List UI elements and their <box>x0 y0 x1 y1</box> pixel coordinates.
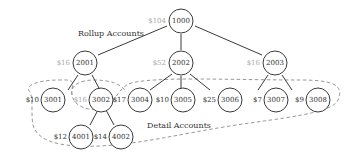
node-id: 2002 <box>172 59 190 67</box>
node-amount: $16 <box>74 96 88 104</box>
node-id: 3006 <box>221 96 239 104</box>
node-id: 3002 <box>92 96 110 104</box>
node-id: 4002 <box>112 133 130 141</box>
node-id: 1000 <box>172 17 190 25</box>
node-id: 4001 <box>72 133 90 141</box>
node-2001: 2001 $16 <box>57 51 97 75</box>
node-id: 2003 <box>266 59 284 67</box>
rollup-accounts-label: Rollup Accounts <box>78 29 144 38</box>
diagram-svg: 1000 $104 2001 $16 2002 $52 2003 $16 300… <box>0 0 362 166</box>
node-3008: 3008 $9 <box>295 88 330 112</box>
node-amount: $10 <box>156 96 169 104</box>
node-amount: $7 <box>253 96 262 104</box>
node-id: 3008 <box>309 96 327 104</box>
node-amount: $52 <box>153 59 166 67</box>
node-id: 2001 <box>76 59 94 67</box>
detail-accounts-label: Detail Accounts <box>147 121 211 130</box>
node-id: 3005 <box>174 96 192 104</box>
node-3007: 3007 $7 <box>253 88 288 112</box>
node-amount: $16 <box>247 59 261 67</box>
node-id: 3004 <box>131 96 149 104</box>
node-3002: 3002 $16 <box>74 88 113 112</box>
node-3004: 3004 $17 <box>113 88 152 112</box>
node-amount: $9 <box>295 96 304 104</box>
account-hierarchy-diagram: 1000 $104 2001 $16 2002 $52 2003 $16 300… <box>0 0 362 166</box>
node-amount: $104 <box>148 17 166 25</box>
node-amount: $12 <box>54 133 67 141</box>
node-2002: 2002 $52 <box>153 51 193 75</box>
node-2003: 2003 $16 <box>247 51 287 75</box>
node-id: 3007 <box>267 96 285 104</box>
node-3006: 3006 $25 <box>203 88 242 112</box>
node-amount: $16 <box>57 59 71 67</box>
node-amount: $14 <box>94 133 108 141</box>
node-4002: 4002 $14 <box>94 125 133 149</box>
node-3005: 3005 $10 <box>156 88 195 112</box>
node-amount: $17 <box>113 96 126 104</box>
node-3001: 3001 $10 <box>26 88 65 112</box>
node-1000: 1000 $104 <box>148 9 193 33</box>
node-4001: 4001 $12 <box>54 125 93 149</box>
node-id: 3001 <box>44 96 62 104</box>
node-amount: $25 <box>203 96 216 104</box>
node-amount: $10 <box>26 96 39 104</box>
